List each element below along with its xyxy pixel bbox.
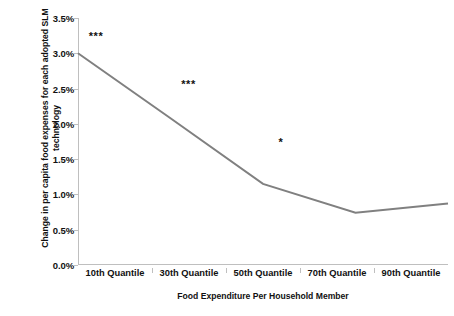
series-polyline [78,53,448,212]
x-axis-boundary-tick [152,268,153,273]
x-axis-boundary-tick [300,268,301,273]
x-axis-tick-label: 70th Quantile [300,268,374,284]
y-axis-title: Change in per capita food expenses for e… [0,0,30,10]
y-axis-tick-label: 2.0% [4,118,74,129]
significance-marker: *** [89,31,104,42]
y-axis-tick-label: 2.5% [4,83,74,94]
y-axis-tick-label: 1.0% [4,189,74,200]
y-axis-tick-label: 0.0% [4,260,74,271]
y-axis-tick-label: 1.5% [4,154,74,165]
y-axis-tick-label: 3.5% [4,13,74,24]
x-axis-title: Food Expenditure Per Household Member [78,291,448,301]
x-axis-tick-label: 90th Quantile [374,268,448,284]
significance-marker: * [279,137,284,148]
x-axis-tick-labels: 10th Quantile30th Quantile50th Quantile7… [78,268,448,284]
y-axis-tick-label: 0.5% [4,224,74,235]
chart-screenshot: Change in per capita food expenses for e… [0,0,454,316]
y-axis-ticks: 0.0%0.5%1.0%1.5%2.0%2.5%3.0%3.5% [0,18,74,265]
x-axis-tick-label: 50th Quantile [226,268,300,284]
x-axis-tick-label: 10th Quantile [78,268,152,284]
y-axis-tick-mark [74,265,78,266]
x-axis-boundary-tick [226,268,227,273]
x-axis-boundary-tick [374,268,375,273]
x-axis-tick-label: 30th Quantile [152,268,226,284]
plot-area: ******* [78,18,448,265]
significance-marker: *** [181,78,196,89]
series-line-chart [78,18,448,265]
y-axis-tick-label: 3.0% [4,48,74,59]
